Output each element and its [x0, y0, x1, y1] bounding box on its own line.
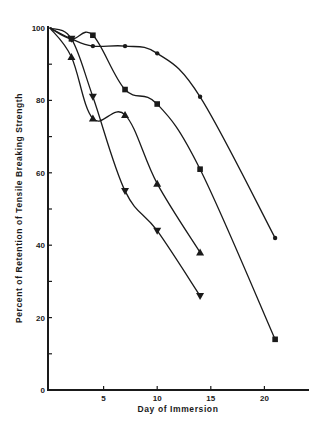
- marker-triangle-up: [153, 180, 161, 187]
- marker-triangle-down: [196, 293, 204, 300]
- marker-square: [272, 337, 278, 343]
- x-tick-label: 20: [260, 394, 269, 403]
- y-tick-label: 20: [36, 314, 45, 323]
- marker-triangle-up: [67, 53, 75, 60]
- marker-circle: [273, 236, 277, 240]
- curve-triangle-up: [50, 28, 200, 252]
- line-chart: 0204060801005101520 Day of Immersion Per…: [0, 0, 317, 431]
- marker-square: [154, 101, 160, 107]
- y-tick-label: 80: [36, 96, 45, 105]
- series-curves: [50, 28, 275, 339]
- series-markers: [67, 32, 277, 342]
- marker-square: [197, 166, 203, 172]
- y-tick-label: 0: [41, 386, 46, 395]
- marker-triangle-down: [121, 188, 129, 195]
- marker-triangle-up: [196, 248, 204, 255]
- marker-triangle-up: [121, 111, 129, 118]
- y-axis-title: Percent of Retention of Tensile Breaking…: [14, 93, 24, 323]
- y-tick-label: 60: [36, 169, 45, 178]
- curve-square: [50, 28, 275, 339]
- curve-circle: [50, 28, 275, 238]
- axes: 0204060801005101520: [32, 24, 309, 403]
- marker-circle: [91, 44, 95, 48]
- marker-square: [90, 32, 96, 38]
- marker-circle: [155, 51, 159, 55]
- x-tick-label: 15: [206, 394, 215, 403]
- x-axis-title: Day of Immersion: [138, 404, 219, 414]
- y-tick-label: 100: [32, 24, 46, 33]
- marker-triangle-down: [89, 94, 97, 101]
- marker-circle: [123, 44, 127, 48]
- x-tick-label: 5: [101, 394, 106, 403]
- y-tick-label: 40: [36, 241, 45, 250]
- marker-square: [122, 87, 128, 93]
- marker-circle: [198, 95, 202, 99]
- x-tick-label: 10: [153, 394, 162, 403]
